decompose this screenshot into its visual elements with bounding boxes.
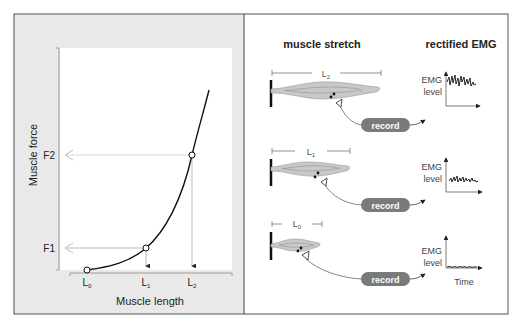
col-title-stretch: muscle stretch (283, 38, 361, 50)
electrode-dot (314, 176, 317, 179)
col-title-emg: rectified EMG (426, 38, 497, 50)
record-button-label: record (371, 275, 399, 285)
y-tick-f2: F2 (43, 150, 55, 161)
point-l0 (84, 267, 90, 273)
electrode-dot (333, 93, 336, 96)
time-label: Time (454, 277, 474, 287)
y-axis-label: Muscle force (27, 124, 39, 186)
right-panel: muscle stretch rectified EMG L2 record E… (244, 14, 508, 314)
record-button-label: record (371, 121, 399, 131)
point-l2 (189, 152, 195, 158)
electrode-dot (297, 250, 300, 253)
plot-area (60, 48, 232, 270)
y-tick-f1: F1 (43, 243, 55, 254)
emg-label-1: EMG (421, 75, 442, 85)
record-button-label: record (371, 201, 399, 211)
emg-label-1: EMG (421, 246, 442, 256)
point-l1 (143, 245, 149, 251)
electrode-dot (300, 247, 303, 250)
right-panel-bg (244, 14, 508, 314)
electrode-dot (317, 172, 320, 175)
emg-label-2: level (423, 174, 442, 184)
emg-label-1: EMG (421, 162, 442, 172)
left-panel: F2 F1 L0 L1 L2 Muscle length Muscle forc… (14, 14, 244, 314)
emg-label-2: level (423, 258, 442, 268)
emg-label-2: level (423, 87, 442, 97)
electrode-dot (330, 96, 333, 99)
x-axis-label: Muscle length (116, 295, 184, 307)
